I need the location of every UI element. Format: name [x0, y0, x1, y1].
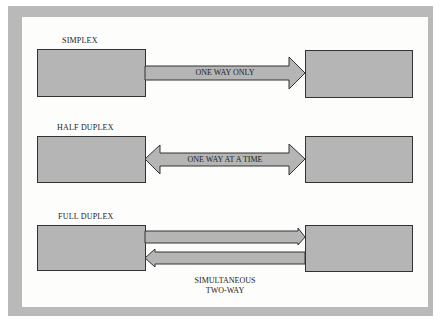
full-duplex-label-line1: SIMULTANEOUS [175, 276, 275, 285]
full-duplex-label-line2: TWO-WAY [175, 286, 275, 295]
simplex-arrow-label: ONE WAY ONLY [175, 68, 275, 77]
half-duplex-arrow-label: ONE WAY AT A TIME [170, 155, 280, 164]
full-duplex-return-arrow-icon [145, 249, 305, 267]
full-duplex-forward-arrow-icon [145, 228, 305, 245]
